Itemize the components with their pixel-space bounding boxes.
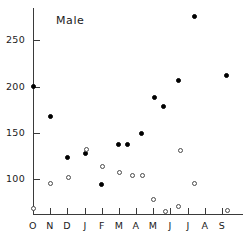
x-axis-tick-label: D (59, 220, 75, 231)
x-axis-tick-label: J (180, 220, 196, 231)
y-axis-line (33, 8, 34, 214)
data-point-filled (152, 95, 157, 100)
data-point-filled (176, 78, 181, 83)
y-axis-tick-label: 200 (0, 81, 25, 92)
x-axis-tick-label: M (145, 220, 161, 231)
x-axis-tick-label: J (77, 220, 93, 231)
data-point-open (176, 204, 181, 209)
data-point-open (130, 173, 135, 178)
data-point-open (66, 175, 71, 180)
x-axis-tick-label: N (42, 220, 58, 231)
x-axis-tick (153, 208, 154, 214)
data-point-filled (125, 142, 130, 147)
data-point-filled (139, 131, 144, 136)
x-axis-tick (50, 208, 51, 214)
data-point-filled (83, 151, 88, 156)
data-point-filled (116, 142, 121, 147)
x-axis-tick (222, 208, 223, 214)
data-point-open (178, 148, 183, 153)
data-point-open (140, 173, 145, 178)
data-point-filled (31, 84, 36, 89)
x-axis-tick-label: O (25, 220, 41, 231)
x-axis-tick (188, 208, 189, 214)
data-point-filled (192, 14, 197, 19)
scatter-plot-figure: Male 100150200250 ONDJFMAMJJAS (0, 0, 248, 238)
data-point-open (31, 206, 36, 211)
x-axis-tick (205, 208, 206, 214)
data-point-filled (65, 155, 70, 160)
y-axis-tick-label: 250 (0, 34, 25, 45)
x-axis-tick (85, 208, 86, 214)
x-axis-tick (67, 208, 68, 214)
x-axis-line (33, 214, 243, 215)
page-title: Male (56, 14, 84, 27)
x-axis-tick-label: J (162, 220, 178, 231)
data-point-open (225, 208, 230, 213)
data-point-filled (161, 104, 166, 109)
data-point-filled (99, 182, 104, 187)
x-axis-tick-label: S (214, 220, 230, 231)
x-axis-tick (170, 208, 171, 214)
data-point-open (192, 181, 197, 186)
y-axis-tick (34, 133, 40, 134)
x-axis-tick-label: A (197, 220, 213, 231)
x-axis-tick (136, 208, 137, 214)
y-axis-tick (34, 179, 40, 180)
x-axis-tick-label: A (128, 220, 144, 231)
y-axis-tick (34, 40, 40, 41)
data-point-filled (224, 73, 229, 78)
x-axis-tick-label: M (111, 220, 127, 231)
data-point-filled (48, 114, 53, 119)
data-point-open (163, 209, 168, 214)
data-point-open (48, 181, 53, 186)
data-point-open (100, 164, 105, 169)
data-point-open (151, 197, 156, 202)
x-axis-tick (102, 208, 103, 214)
x-axis-tick (119, 208, 120, 214)
x-axis-tick-label: F (94, 220, 110, 231)
y-axis-tick-label: 100 (0, 173, 25, 184)
data-point-open (117, 170, 122, 175)
y-axis-tick-label: 150 (0, 127, 25, 138)
data-point-open (84, 147, 89, 152)
